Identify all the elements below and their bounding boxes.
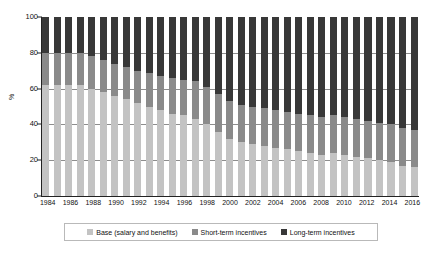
bar-2002[interactable] (249, 17, 256, 196)
bar-segment (169, 17, 176, 78)
bar-segment (330, 115, 337, 153)
bar-1987[interactable] (77, 17, 84, 196)
x-axis-tick-1986: 1986 (63, 199, 79, 206)
bar-2013[interactable] (376, 17, 383, 196)
bar-1995[interactable] (169, 17, 176, 196)
bar-segment (203, 17, 210, 87)
bar-1991[interactable] (123, 17, 130, 196)
stacked-bar-chart: % 020406080100 1984198619881990199219941… (0, 0, 437, 256)
bar-2014[interactable] (387, 17, 394, 196)
bar-1993[interactable] (146, 17, 153, 196)
bar-segment (341, 155, 348, 196)
bar-1986[interactable] (65, 17, 72, 196)
bar-segment (295, 151, 302, 196)
bar-segment (88, 17, 95, 56)
y-tickmark-100 (37, 17, 42, 18)
bar-segment (330, 17, 337, 115)
bar-2012[interactable] (364, 17, 371, 196)
bar-segment (203, 87, 210, 125)
y-axis-tick-20: 20 (16, 156, 38, 164)
bar-segment (77, 17, 84, 53)
bar-segment (307, 153, 314, 196)
bar-segment (376, 160, 383, 196)
bar-segment (249, 144, 256, 196)
bar-segment (238, 142, 245, 196)
bar-segment (226, 17, 233, 101)
bar-segment (376, 17, 383, 123)
x-axis-tick-2012: 2012 (359, 199, 375, 206)
bar-segment (215, 17, 222, 94)
bar-2003[interactable] (261, 17, 268, 196)
legend-swatch-icon (192, 229, 198, 235)
bar-2000[interactable] (226, 17, 233, 196)
legend-label: Short-term incentives (201, 229, 267, 236)
bar-segment (65, 85, 72, 196)
bar-segment (77, 85, 84, 196)
bar-segment (318, 117, 325, 155)
y-tickmark-0 (37, 196, 42, 197)
bar-1984[interactable] (42, 17, 49, 196)
bar-2005[interactable] (284, 17, 291, 196)
bar-segment (88, 89, 95, 196)
bar-2008[interactable] (318, 17, 325, 196)
bar-segment (54, 17, 61, 53)
bar-segment (238, 17, 245, 105)
bar-segment (100, 92, 107, 196)
legend-item-0[interactable]: Base (salary and benefits) (87, 229, 177, 236)
bar-segment (284, 112, 291, 150)
x-axis-tick-2006: 2006 (291, 199, 307, 206)
bar-segment (100, 60, 107, 92)
bar-2004[interactable] (272, 17, 279, 196)
bar-segment (146, 17, 153, 72)
bar-2015[interactable] (399, 17, 406, 196)
x-axis-tick-2008: 2008 (313, 199, 329, 206)
bar-segment (157, 17, 164, 76)
bar-2001[interactable] (238, 17, 245, 196)
legend-label: Long-term incentives (290, 229, 355, 236)
bar-1989[interactable] (100, 17, 107, 196)
legend-swatch-icon (87, 229, 93, 235)
y-tickmark-20 (37, 160, 42, 161)
bar-segment (353, 157, 360, 196)
bar-segment (261, 146, 268, 196)
bar-segment (42, 17, 49, 53)
legend-item-2[interactable]: Long-term incentives (281, 229, 355, 236)
bar-1997[interactable] (192, 17, 199, 196)
legend-swatch-icon (281, 229, 287, 235)
bar-1992[interactable] (134, 17, 141, 196)
bar-2007[interactable] (307, 17, 314, 196)
bar-segment (411, 130, 418, 168)
bar-segment (295, 114, 302, 152)
bar-2009[interactable] (330, 17, 337, 196)
bar-segment (330, 153, 337, 196)
bar-segment (261, 108, 268, 146)
bar-segment (272, 17, 279, 110)
legend-item-1[interactable]: Short-term incentives (192, 229, 267, 236)
bar-1999[interactable] (215, 17, 222, 196)
bar-segment (307, 17, 314, 115)
bar-segment (111, 17, 118, 64)
bar-1985[interactable] (54, 17, 61, 196)
bar-2011[interactable] (353, 17, 360, 196)
bar-segment (399, 166, 406, 196)
bar-1998[interactable] (203, 17, 210, 196)
bar-1990[interactable] (111, 17, 118, 196)
x-axis-tick-2000: 2000 (222, 199, 238, 206)
y-tickmark-40 (37, 124, 42, 125)
bar-1994[interactable] (157, 17, 164, 196)
bar-segment (169, 114, 176, 196)
bar-segment (169, 78, 176, 114)
bar-segment (411, 17, 418, 130)
bar-2006[interactable] (295, 17, 302, 196)
bar-segment (226, 101, 233, 139)
bar-segment (54, 53, 61, 85)
bar-segment (192, 81, 199, 119)
bar-2010[interactable] (341, 17, 348, 196)
bar-segment (387, 124, 394, 162)
bar-1988[interactable] (88, 17, 95, 196)
bar-1996[interactable] (180, 17, 187, 196)
bar-segment (341, 117, 348, 155)
bar-segment (295, 17, 302, 114)
bar-segment (261, 17, 268, 108)
bar-2016[interactable] (411, 17, 418, 196)
